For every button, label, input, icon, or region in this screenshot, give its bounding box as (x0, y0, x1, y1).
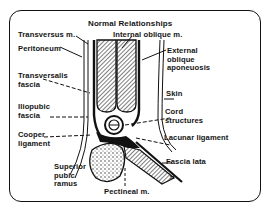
cord-structures-shape (105, 116, 123, 134)
label-external-oblique: External oblique aponeuosis (167, 47, 210, 73)
label-internal-oblique: Internal oblique m. (113, 31, 182, 40)
tilde-symbol: ≈ (170, 174, 175, 183)
muscle-bodies (97, 40, 136, 112)
label-transversus: Transversus m. (18, 31, 75, 40)
label-lacunar-ligament: Lacunar ligament (164, 134, 228, 143)
label-cord-structures: Cord structures (165, 108, 203, 125)
diagram-title: Normal Relationships (88, 20, 172, 29)
label-peritoneum: Peritoneum (18, 45, 61, 54)
label-transversalis-fascia: Transversalis fascia (18, 72, 68, 89)
label-cooper-ligament: Cooper ligament (18, 131, 50, 148)
label-iliopubic-fascia: Iliopubic fascia (18, 103, 50, 120)
label-skin: Skin (166, 90, 182, 99)
label-superior-pubic-ramus: Superior pubic ramus (54, 163, 86, 189)
label-pectineal: Pectineal m. (104, 188, 150, 197)
peritoneum-layer (70, 40, 88, 178)
label-fascia-lata: Fascia lata (166, 158, 206, 167)
superior-pubic-ramus-shape (90, 143, 125, 181)
